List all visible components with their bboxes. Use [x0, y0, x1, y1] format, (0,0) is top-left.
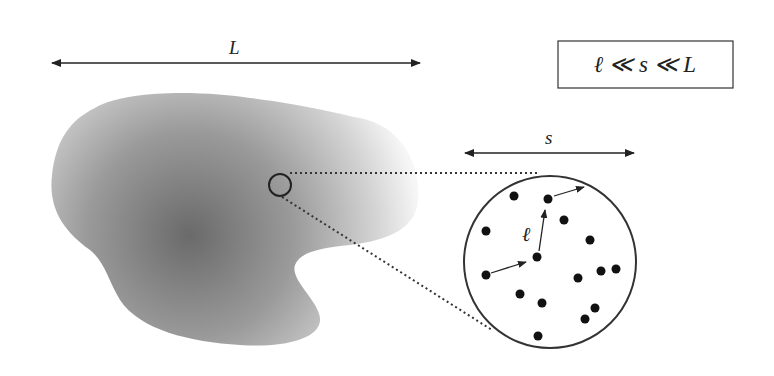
- s-label: s: [545, 127, 552, 148]
- particle: [544, 195, 553, 204]
- ell-label: ℓ: [522, 223, 531, 245]
- macroscopic-domain-blob: [51, 93, 418, 345]
- particle: [612, 265, 621, 274]
- length-scale-L: L: [52, 37, 420, 63]
- particle: [538, 299, 547, 308]
- particle: [574, 274, 583, 283]
- scale-inequality-box: ℓ ≪ s ≪ L: [558, 41, 733, 88]
- particle: [510, 192, 519, 201]
- particle: [586, 236, 595, 245]
- multiscale-diagram: L ℓ ≪ s ≪ L s ℓ: [0, 0, 774, 376]
- L-label: L: [228, 37, 240, 58]
- particle: [581, 315, 590, 324]
- particle: [482, 271, 491, 280]
- length-scale-s: s: [465, 127, 634, 153]
- particle: [597, 267, 606, 276]
- inequality-label: ℓ ≪ s ≪ L: [594, 52, 696, 77]
- particle: [560, 216, 569, 225]
- particle: [482, 227, 491, 236]
- particle: [591, 304, 600, 313]
- particle: [533, 253, 542, 262]
- particle: [534, 332, 543, 341]
- particle: [516, 290, 525, 299]
